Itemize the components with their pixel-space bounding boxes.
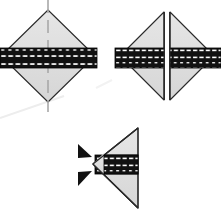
split-gap: [165, 12, 169, 100]
hatched-band-split-right: [169, 48, 221, 68]
hatched-band-whole: [0, 48, 97, 68]
hatched-band-split-left: [115, 48, 165, 68]
diagram-canvas: [0, 0, 221, 224]
geometry-diagram: [0, 0, 221, 224]
hatched-band-triangle-inner: [104, 155, 138, 174]
figure-caption: [0, 216, 221, 224]
